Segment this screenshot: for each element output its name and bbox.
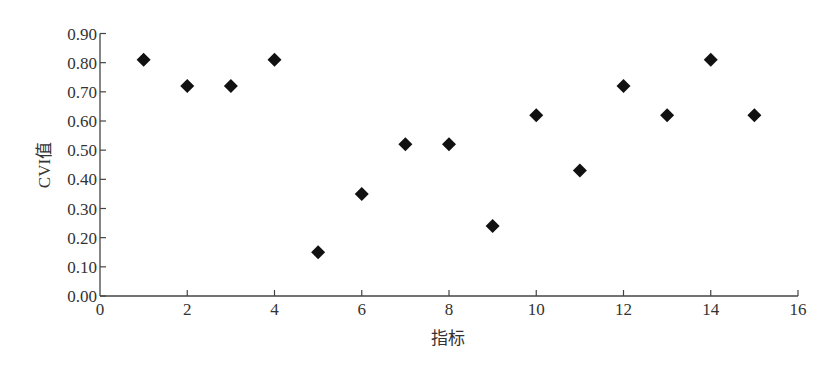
diamond-marker	[486, 219, 500, 233]
x-tick-label: 6	[358, 300, 367, 319]
data-points	[137, 53, 762, 260]
y-tick-label: 0.50	[67, 141, 97, 160]
diamond-marker	[747, 108, 761, 122]
x-tick-label: 12	[615, 300, 632, 319]
x-tick-label: 10	[528, 300, 545, 319]
diamond-marker	[355, 187, 369, 201]
x-tick-label: 16	[790, 300, 807, 319]
y-tick-label: 0.90	[67, 25, 97, 44]
diamond-marker	[704, 53, 718, 67]
diamond-marker	[573, 164, 587, 178]
diamond-marker	[137, 53, 151, 67]
diamond-marker	[311, 245, 325, 259]
x-tick-label: 2	[183, 300, 192, 319]
diamond-marker	[180, 79, 194, 93]
scatter-chart: 02468101214160.000.100.200.300.400.500.6…	[0, 0, 834, 381]
y-tick-label: 0.00	[67, 287, 97, 306]
y-axis-title: CVI值	[35, 142, 54, 188]
diamond-marker	[398, 137, 412, 151]
y-tick-label: 0.10	[67, 258, 97, 277]
x-tick-label: 4	[270, 300, 279, 319]
diamond-marker	[529, 108, 543, 122]
x-axis-title: 指标	[431, 329, 465, 348]
diamond-marker	[442, 137, 456, 151]
x-tick-label: 0	[96, 300, 105, 319]
y-tick-label: 0.70	[67, 83, 97, 102]
y-tick-label: 0.40	[67, 170, 97, 189]
diamond-marker	[660, 108, 674, 122]
x-tick-label: 8	[445, 300, 454, 319]
y-tick-label: 0.30	[67, 200, 97, 219]
y-tick-label: 0.80	[67, 54, 97, 73]
axes: 02468101214160.000.100.200.300.400.500.6…	[67, 25, 806, 320]
x-tick-label: 14	[702, 300, 720, 319]
diamond-marker	[268, 53, 282, 67]
diamond-marker	[224, 79, 238, 93]
y-tick-label: 0.60	[67, 112, 97, 131]
diamond-marker	[617, 79, 631, 93]
y-tick-label: 0.20	[67, 229, 97, 248]
